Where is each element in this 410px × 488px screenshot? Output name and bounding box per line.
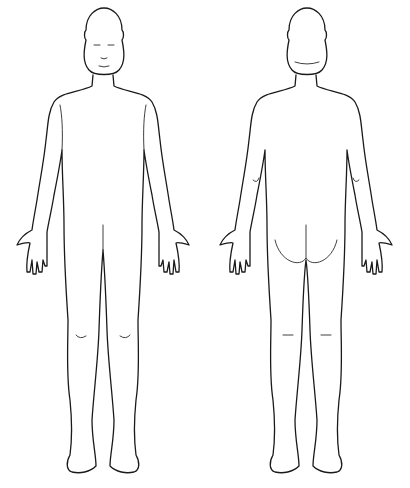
body-figure-front xyxy=(0,0,205,488)
body-figure-back xyxy=(205,0,410,488)
body-outline-front-icon xyxy=(0,0,205,488)
body-outline-back-icon xyxy=(205,0,410,488)
